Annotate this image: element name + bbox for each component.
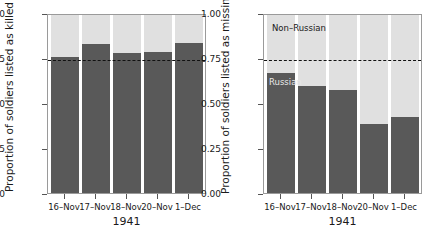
bar-segment-russian [267, 73, 295, 193]
plot-area-missing: Non–Russian Russian [263, 14, 422, 194]
y-tick-label-right-0-75: 0.75 [181, 55, 221, 64]
bar-segment-russian [360, 124, 388, 193]
bars-missing [264, 15, 421, 193]
x-tick-mark-left-3 [126, 194, 127, 199]
x-tick-label-right-1-dec: 1–Dec [381, 202, 427, 212]
x-axis-title-right: 1941 [263, 215, 422, 228]
bar-segment-russian [175, 43, 203, 193]
y-tick-label-left-0-25: 0.25 [0, 145, 5, 154]
bar-segment-russian [144, 52, 172, 193]
y-tick-label-left-0-00: 0.00 [0, 190, 5, 199]
bar-missing-1-dec [391, 14, 419, 193]
y-axis-title-left: Proportion of soldiers listed as killed [2, 0, 16, 194]
x-tick-mark-left-1 [64, 194, 65, 199]
x-tick-mark-left-4 [157, 194, 158, 199]
y-tick-label-right-1-00: 1.00 [181, 10, 221, 19]
y-tick-label-left-1-00: 1.00 [0, 10, 5, 19]
bar-killed-16-nov [51, 14, 79, 193]
y-tick-label-left-0-50: 0.50 [0, 100, 5, 109]
y-tick-mark-left-0-00 [42, 194, 47, 195]
x-tick-label-left-1-dec: 1–Dec [165, 202, 211, 212]
x-axis-title-left: 1941 [47, 215, 206, 228]
bar-missing-16-nov [267, 14, 295, 193]
x-tick-mark-right-2 [311, 194, 312, 199]
bar-segment-russian [329, 90, 357, 193]
bar-segment-russian [298, 86, 326, 193]
y-axis-title-right: Proportion of soldiers listed as missing [218, 0, 232, 194]
panel-killed: Proportion of soldiers listed as killed … [0, 0, 216, 242]
figure: Proportion of soldiers listed as killed … [0, 0, 432, 242]
bar-killed-18-nov [113, 14, 141, 193]
bar-missing-20-nov [360, 14, 388, 193]
annotation-non-russian: Non–Russian [272, 23, 326, 33]
panel-missing: Proportion of soldiers listed as missing… [216, 0, 432, 242]
bar-segment-russian [51, 57, 79, 193]
bar-missing-18-nov [329, 14, 357, 193]
bar-segment-russian [391, 117, 419, 193]
y-tick-label-left-0-75: 0.75 [0, 55, 5, 64]
y-tick-mark-right-0-00 [258, 194, 263, 195]
bar-killed-20-nov [144, 14, 172, 193]
x-tick-mark-right-3 [342, 194, 343, 199]
bar-killed-17-nov [82, 14, 110, 193]
x-tick-mark-right-5 [404, 194, 405, 199]
x-tick-mark-right-1 [280, 194, 281, 199]
x-tick-mark-left-2 [95, 194, 96, 199]
bar-missing-17-nov [298, 14, 326, 193]
bar-segment-russian [82, 44, 110, 193]
annotation-russian: Russian [269, 77, 302, 87]
y-tick-label-right-0-50: 0.50 [181, 100, 221, 109]
x-tick-mark-right-4 [373, 194, 374, 199]
y-tick-label-right-0-00: 0.00 [181, 190, 221, 199]
reference-line-0-75 [264, 60, 421, 61]
bar-segment-russian [113, 53, 141, 193]
y-tick-label-right-0-25: 0.25 [181, 145, 221, 154]
